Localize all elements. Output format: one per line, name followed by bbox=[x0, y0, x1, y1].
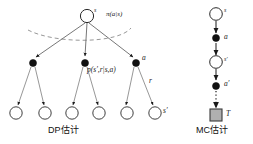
mc-label-next-state: s′ bbox=[224, 56, 228, 62]
dp-leaf-node-4 bbox=[93, 107, 105, 119]
dp-leaf-node-3 bbox=[66, 107, 78, 119]
label-reward: r bbox=[149, 77, 152, 85]
label-policy: π(a|s) bbox=[106, 11, 122, 18]
dp-leaf-node-1 bbox=[10, 107, 22, 119]
dp-panel bbox=[10, 9, 161, 119]
caption-dp: DP估计 bbox=[48, 126, 79, 135]
mc-next-state-node bbox=[210, 56, 223, 69]
dp-leaf-nodes bbox=[10, 107, 161, 119]
dp-root-state-node bbox=[80, 9, 93, 22]
backup-diagram-figure: s π(a|s) p(s′,r|s,a) a r s′ DP估计 s a s′ … bbox=[0, 0, 253, 144]
dp-action-node-1 bbox=[30, 60, 37, 67]
edge-action3-to-leaf5 bbox=[126, 67, 134, 105]
caption-mc: MC估计 bbox=[196, 126, 228, 135]
mc-label-action: a bbox=[224, 33, 228, 41]
edge-action1-to-leaf2 bbox=[35, 67, 44, 105]
label-action: a bbox=[142, 54, 146, 62]
dp-leaf-node-5 bbox=[121, 107, 133, 119]
edge-action2-to-leaf3 bbox=[73, 67, 83, 105]
label-dynamics: p(s′,r|s,a) bbox=[87, 66, 116, 74]
label-root-state: s bbox=[94, 7, 96, 13]
mc-state-node bbox=[210, 8, 223, 21]
dp-leaf-node-6 bbox=[149, 107, 161, 119]
mc-action-node bbox=[213, 35, 220, 42]
edge-root-to-action-2 bbox=[85, 23, 87, 56]
edge-action3-to-leaf6 bbox=[138, 67, 153, 105]
mc-terminal-square bbox=[210, 109, 222, 121]
mc-next-action-node bbox=[213, 83, 220, 90]
edge-action1-to-leaf1 bbox=[18, 67, 31, 105]
edge-root-to-action-3 bbox=[89, 23, 133, 57]
mc-label-state: s bbox=[224, 7, 226, 13]
mc-label-next-action: a′ bbox=[224, 80, 229, 88]
dp-leaf-node-2 bbox=[39, 107, 51, 119]
dp-action-node-3 bbox=[133, 60, 140, 67]
mc-label-terminal: T bbox=[226, 110, 230, 118]
mc-panel bbox=[210, 8, 223, 121]
label-next-state: s′ bbox=[163, 107, 168, 115]
policy-arc bbox=[28, 28, 131, 40]
diagram-canvas bbox=[0, 0, 253, 144]
dp-transition-edges bbox=[18, 67, 153, 105]
